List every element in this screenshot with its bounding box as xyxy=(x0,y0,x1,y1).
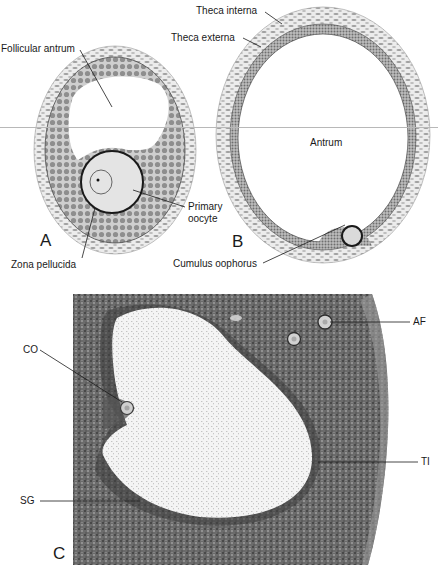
figure-illustrations xyxy=(0,0,438,573)
label-sg: SG xyxy=(20,495,34,507)
label-cumulus-oophorus: Cumulus oophorus xyxy=(173,258,257,270)
label-ti: TI xyxy=(421,456,430,468)
label-zona-pellucida: Zona pellucida xyxy=(11,259,76,271)
panel-letter-a: A xyxy=(40,232,51,250)
panel-letter-b: B xyxy=(232,233,243,251)
panel-c-photomicrograph xyxy=(73,294,388,565)
label-primary-oocyte-line2: oocyte xyxy=(188,213,217,225)
label-theca-externa: Theca externa xyxy=(171,32,235,44)
panel-letter-c: C xyxy=(53,545,65,563)
separator-line xyxy=(0,127,438,128)
label-follicular-antrum: Follicular antrum xyxy=(1,43,75,55)
label-af: AF xyxy=(413,316,426,328)
label-primary-oocyte-line1: Primary xyxy=(188,201,222,213)
panel-a-follicle xyxy=(34,46,196,254)
follicle-figure: Follicular antrum Primary oocyte Zona pe… xyxy=(0,0,438,573)
panel-b-follicle xyxy=(216,7,430,263)
label-theca-interna: Theca interna xyxy=(196,5,257,17)
label-co: CO xyxy=(23,344,38,356)
label-antrum: Antrum xyxy=(310,137,342,149)
